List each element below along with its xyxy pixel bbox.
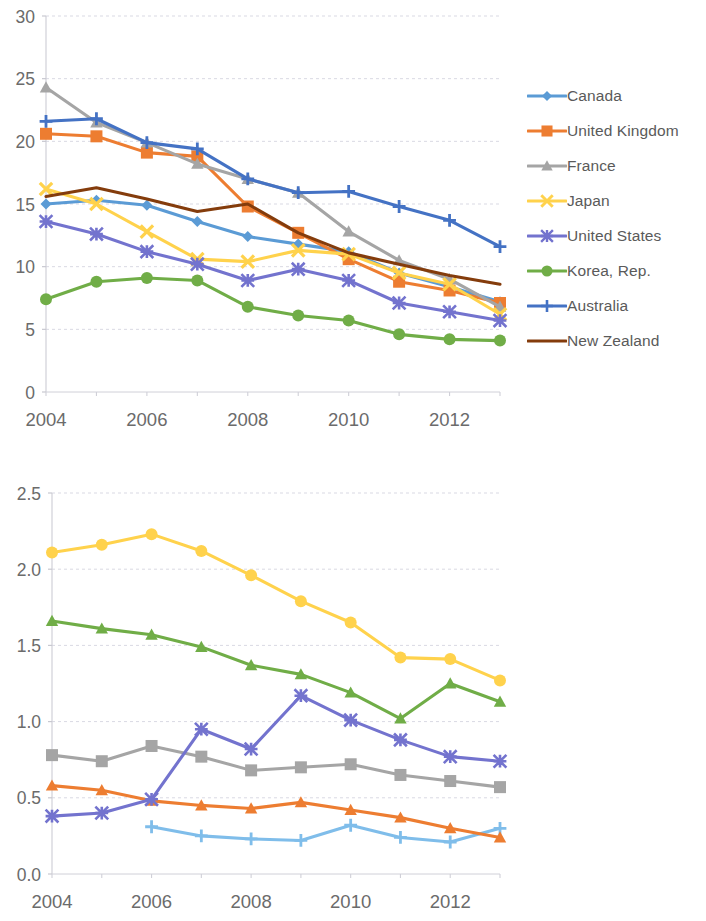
- data-point-marker: [345, 617, 357, 629]
- legend-marker-icon: [527, 122, 567, 140]
- data-point-marker: [394, 831, 407, 844]
- data-point-marker: [444, 750, 457, 763]
- y-axis-tick-label: 2.0: [17, 560, 42, 580]
- x-axis-tick-label: 2008: [227, 409, 268, 430]
- data-point-marker: [494, 335, 506, 347]
- legend-marker-icon: [527, 192, 567, 210]
- data-point-marker: [295, 761, 307, 773]
- legend-item-france[interactable]: France: [527, 148, 679, 183]
- data-point-marker: [145, 793, 158, 806]
- legend-item-korea-rep[interactable]: Korea, Rep.: [527, 253, 679, 288]
- series-line: [52, 621, 500, 719]
- data-point-marker: [292, 263, 305, 276]
- data-point-marker: [191, 274, 203, 286]
- legend-item-canada[interactable]: Canada: [527, 78, 679, 113]
- series-line: [52, 534, 500, 680]
- legend-marker-icon: [527, 87, 567, 105]
- data-point-marker: [343, 315, 355, 327]
- data-point-marker: [195, 830, 208, 843]
- legend-marker-icon: [527, 332, 567, 350]
- data-point-marker: [342, 185, 355, 198]
- legend-marker-icon: [527, 297, 567, 315]
- data-point-marker: [393, 200, 406, 213]
- series-line: [46, 119, 500, 247]
- data-point-marker: [242, 301, 254, 313]
- data-point-marker: [46, 810, 59, 823]
- data-point-marker: [195, 723, 208, 736]
- data-point-marker: [46, 546, 58, 558]
- data-point-marker: [40, 215, 53, 228]
- data-point-marker: [541, 300, 553, 312]
- data-point-marker: [444, 677, 456, 688]
- data-point-marker: [444, 775, 456, 787]
- data-point-marker: [140, 245, 153, 258]
- upper-chart-legend: CanadaUnited KingdomFranceJapanUnited St…: [527, 78, 679, 358]
- data-point-marker: [145, 820, 158, 833]
- y-axis-tick-label: 0.5: [17, 788, 41, 808]
- data-point-marker: [245, 743, 258, 756]
- y-axis-tick-label: 1.0: [17, 712, 42, 732]
- data-point-marker: [444, 836, 457, 849]
- data-point-marker: [40, 293, 52, 305]
- data-point-marker: [195, 751, 207, 763]
- data-point-marker: [394, 733, 407, 746]
- data-point-marker: [141, 272, 153, 284]
- lower-chart-canvas: 0.00.51.01.52.02.520042006200820102012: [0, 466, 706, 921]
- legend-label: France: [567, 157, 616, 174]
- data-point-marker: [344, 714, 357, 727]
- legend-label: Korea, Rep.: [567, 262, 651, 279]
- data-point-marker: [294, 834, 307, 847]
- data-point-marker: [393, 328, 405, 340]
- data-point-marker: [146, 528, 158, 540]
- data-point-marker: [245, 833, 258, 846]
- y-axis-tick-label: 0.0: [17, 865, 42, 885]
- legend-item-united-kingdom[interactable]: United Kingdom: [527, 113, 679, 148]
- legend-label: United Kingdom: [567, 122, 679, 139]
- y-axis-tick-label: 10: [16, 257, 36, 277]
- data-point-marker: [242, 231, 253, 242]
- data-point-marker: [96, 539, 108, 551]
- legend-item-united-states[interactable]: United States: [527, 218, 679, 253]
- legend-label: Japan: [567, 192, 610, 209]
- x-axis-tick-label: 2012: [430, 891, 471, 912]
- data-point-marker: [141, 225, 153, 237]
- data-point-marker: [46, 749, 58, 761]
- series-line: [52, 786, 500, 838]
- x-axis-tick-label: 2006: [131, 891, 172, 912]
- data-point-marker: [494, 240, 507, 253]
- data-point-marker: [195, 545, 207, 557]
- data-point-marker: [541, 265, 552, 276]
- legend-item-australia[interactable]: Australia: [527, 288, 679, 323]
- x-axis-tick-label: 2012: [429, 409, 470, 430]
- series-line: [46, 189, 500, 314]
- data-point-marker: [494, 674, 506, 686]
- x-axis-tick-label: 2010: [328, 409, 369, 430]
- data-point-marker: [394, 652, 406, 664]
- data-point-marker: [344, 819, 357, 832]
- data-point-marker: [292, 310, 304, 322]
- legend-item-japan[interactable]: Japan: [527, 183, 679, 218]
- data-point-marker: [494, 755, 507, 768]
- x-axis-tick-label: 2010: [330, 891, 371, 912]
- data-point-marker: [541, 230, 553, 242]
- data-point-marker: [394, 769, 406, 781]
- y-axis-tick-label: 20: [16, 132, 36, 152]
- y-axis-tick-label: 30: [16, 7, 36, 27]
- data-point-marker: [191, 258, 204, 271]
- legend-item-new-zealand[interactable]: New Zealand: [527, 323, 679, 358]
- data-point-marker: [245, 569, 257, 581]
- data-point-marker: [90, 276, 102, 288]
- data-point-marker: [294, 689, 307, 702]
- data-point-marker: [443, 305, 456, 318]
- x-axis-tick-label: 2006: [126, 409, 167, 430]
- data-point-marker: [444, 333, 456, 345]
- data-point-marker: [541, 125, 552, 136]
- legend-marker-icon: [527, 262, 567, 280]
- data-point-marker: [90, 228, 103, 241]
- data-point-marker: [345, 758, 357, 770]
- y-axis-tick-label: 5: [25, 320, 35, 340]
- data-point-marker: [96, 755, 108, 767]
- legend-label: United States: [567, 227, 661, 244]
- legend-marker-icon: [527, 227, 567, 245]
- data-point-marker: [95, 807, 108, 820]
